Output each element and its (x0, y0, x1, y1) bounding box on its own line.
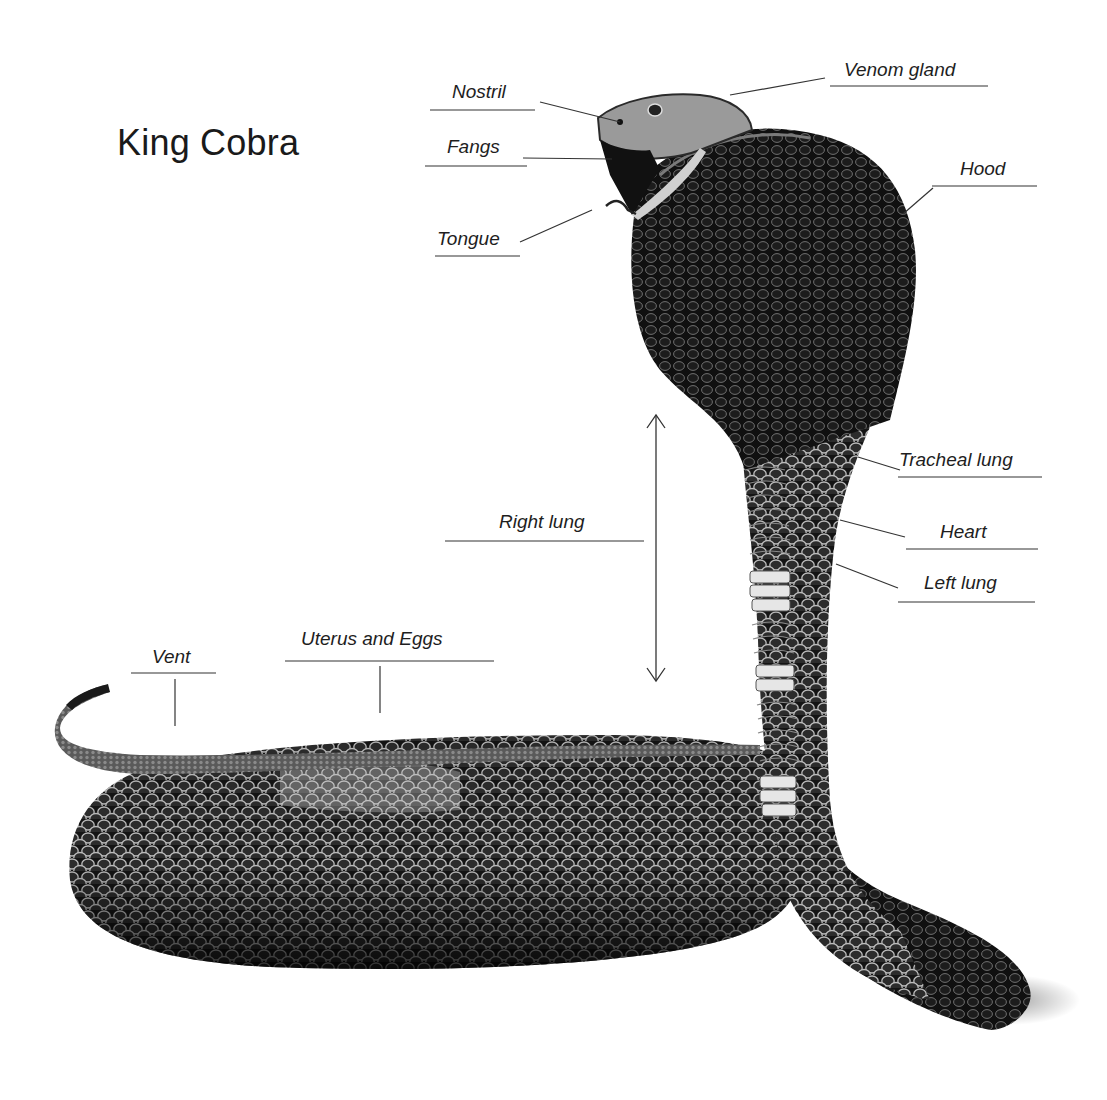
label-nostril: Nostril (452, 81, 506, 103)
label-right-lung: Right lung (499, 511, 585, 533)
label-tongue: Tongue (437, 228, 500, 250)
cobra-illustration (0, 0, 1107, 1100)
double-headed-vertical-arrow-icon (647, 415, 665, 681)
label-uterus-and-eggs: Uterus and Eggs (301, 628, 443, 650)
label-venom-gland: Venom gland (844, 59, 955, 81)
label-vent: Vent (152, 646, 190, 668)
label-hood: Hood (960, 158, 1005, 180)
label-tracheal-lung: Tracheal lung (899, 449, 1013, 471)
snake-coil (55, 684, 800, 969)
leader-lines (131, 78, 1042, 726)
label-heart: Heart (940, 521, 986, 543)
label-left-lung: Left lung (924, 572, 997, 594)
king-cobra-diagram: King Cobra Nostril Fangs Tongue Venom gl… (0, 0, 1107, 1100)
diagram-title: King Cobra (117, 122, 299, 164)
label-fangs: Fangs (447, 136, 500, 158)
